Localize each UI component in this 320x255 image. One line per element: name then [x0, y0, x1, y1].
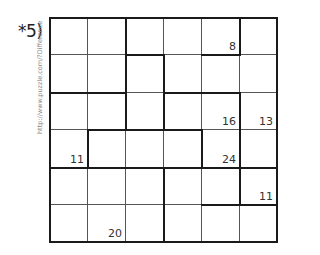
cage-border	[201, 92, 241, 95]
grid-cell[interactable]	[164, 130, 202, 168]
cage-border	[201, 54, 241, 57]
grid-cell[interactable]	[88, 18, 126, 55]
grid-cell[interactable]	[50, 18, 88, 55]
grid-cell[interactable]	[126, 168, 164, 205]
grid-cell[interactable]	[126, 130, 164, 168]
grid-cell[interactable]	[240, 130, 277, 168]
cage-border	[87, 129, 90, 169]
grid-cell[interactable]	[164, 205, 202, 242]
grid-cell[interactable]	[50, 168, 88, 205]
grid-cell[interactable]	[50, 205, 88, 242]
grid-cell[interactable]: 20	[88, 205, 126, 242]
cage-border	[49, 92, 127, 95]
cage-border	[239, 167, 278, 170]
grid-cell[interactable]	[164, 168, 202, 205]
puzzle-grid: 2011241113168 http://www.puzzle.com/?Dif…	[50, 18, 277, 242]
cage-border	[239, 167, 242, 206]
grid-cell[interactable]: 16	[202, 93, 240, 130]
cage-border	[201, 129, 204, 169]
cage-border	[239, 92, 242, 169]
grid-cell[interactable]	[164, 18, 202, 55]
cage-border	[201, 204, 278, 207]
grid-cell[interactable]	[88, 130, 126, 168]
grid-cell[interactable]	[126, 93, 164, 130]
grid-cell[interactable]	[240, 18, 277, 55]
grid-cell[interactable]	[202, 55, 240, 93]
grid-cell[interactable]	[50, 55, 88, 93]
cage-sum-clue: 11	[259, 190, 273, 203]
cage-border	[239, 17, 242, 56]
cage-border	[163, 92, 203, 95]
cage-border	[163, 167, 166, 243]
grid-cell[interactable]	[88, 168, 126, 205]
cage-border	[49, 167, 203, 170]
cage-sum-clue: 8	[229, 40, 236, 53]
cage-sum-clue: 13	[259, 115, 273, 128]
cage-border	[163, 129, 203, 132]
grid-cell[interactable]	[164, 93, 202, 130]
cage-border	[125, 17, 128, 131]
grid-cell[interactable]	[50, 93, 88, 130]
grid-cell[interactable]	[202, 168, 240, 205]
cage-border	[125, 54, 165, 57]
cage-sum-clue: 11	[70, 153, 84, 166]
grid-cell[interactable]	[240, 205, 277, 242]
grid-cell[interactable]	[126, 18, 164, 55]
cage-border	[201, 167, 241, 170]
cage-sum-clue: 16	[222, 115, 236, 128]
cage-sum-clue: 24	[222, 153, 236, 166]
grid-cell[interactable]: 11	[50, 130, 88, 168]
grid-cell[interactable]	[240, 55, 277, 93]
grid-cell[interactable]: 8	[202, 18, 240, 55]
grid-cell[interactable]: 24	[202, 130, 240, 168]
grid-cell[interactable]	[126, 55, 164, 93]
cage-border	[87, 129, 165, 132]
grid-cell[interactable]	[88, 93, 126, 130]
grid-cell[interactable]: 11	[240, 168, 277, 205]
grid-cell[interactable]	[202, 205, 240, 242]
grid-cell[interactable]	[126, 205, 164, 242]
grid-cell[interactable]	[164, 55, 202, 93]
grid-cell[interactable]	[88, 55, 126, 93]
cage-sum-clue: 20	[108, 227, 122, 240]
grid-cell[interactable]: 13	[240, 93, 277, 130]
